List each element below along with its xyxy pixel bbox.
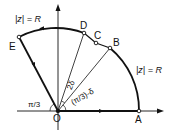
angle-arc-right: [63, 105, 66, 111]
arc-DE: [19, 28, 84, 37]
point-E-marker: [17, 35, 21, 39]
point-label-C: C: [94, 31, 101, 41]
ray-OB: [58, 48, 110, 111]
angle-label-left: π/3: [28, 101, 40, 109]
point-D-marker: [82, 31, 86, 35]
arrow-OA-icon: [99, 109, 104, 113]
y-axis-arrow-icon: [56, 4, 61, 11]
contour-diagram: O A B C D E |z| = R |z| = R π/3 2δ (π/3)…: [0, 0, 174, 134]
point-C-marker: [94, 41, 98, 45]
point-label-D: D: [80, 21, 87, 31]
angle-arc-left: [50, 104, 54, 111]
x-axis-arrow-icon: [157, 109, 164, 114]
point-label-E: E: [9, 42, 16, 52]
point-label-O: O: [53, 114, 61, 124]
angle-arc-2delta: [61, 101, 64, 103]
arc-label-right: |z| = R: [136, 66, 162, 75]
point-label-A: A: [135, 115, 142, 125]
arc-AB: [110, 48, 139, 111]
point-B-marker: [108, 46, 112, 50]
point-A-marker: [137, 109, 141, 113]
point-label-B: B: [113, 38, 120, 48]
arc-label-top: |z| = R: [15, 15, 41, 24]
